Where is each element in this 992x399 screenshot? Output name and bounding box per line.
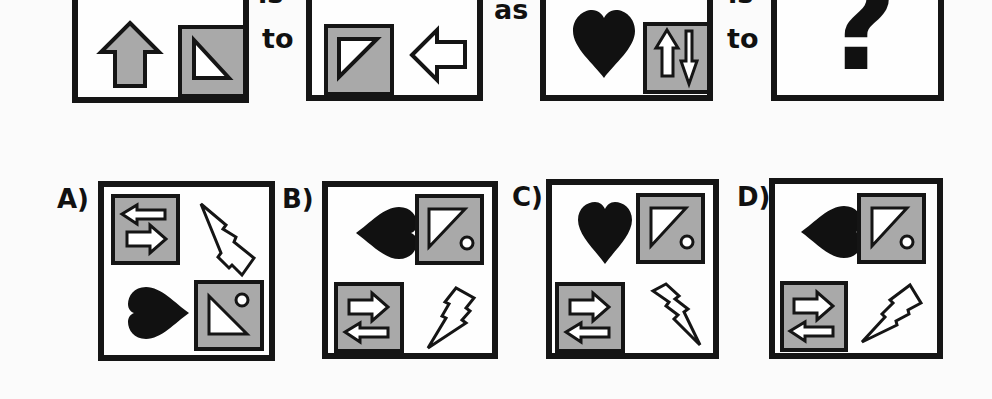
- lightning-bolt-icon: [862, 285, 921, 342]
- gray-square: [645, 24, 707, 92]
- analogy-panel-1: [72, 0, 249, 103]
- gray-square: [557, 284, 623, 351]
- heart-icon: [356, 207, 417, 259]
- option-d[interactable]: [769, 178, 943, 359]
- gray-square: [417, 196, 482, 263]
- question-mark: ?: [815, 0, 905, 89]
- option-b-label: B): [282, 186, 314, 212]
- heart-icon: [801, 206, 862, 258]
- option-b[interactable]: [322, 181, 498, 359]
- gray-square: [326, 26, 392, 94]
- lightning-bolt-icon: [201, 204, 254, 275]
- gray-square: [336, 284, 402, 351]
- heart-icon: [128, 287, 189, 339]
- circle-icon: [681, 236, 693, 248]
- option-a-label: A): [57, 186, 89, 212]
- connector-as: as: [494, 0, 528, 23]
- option-c-label: C): [512, 184, 543, 210]
- analogy-panel-2: [306, 0, 483, 101]
- analogy-panel-3: [540, 0, 713, 101]
- option-c[interactable]: [546, 179, 719, 359]
- gray-square: [638, 195, 703, 262]
- heart-icon: [578, 202, 632, 264]
- connector-is: is: [728, 0, 753, 7]
- lightning-bolt-icon: [428, 288, 474, 348]
- connector-to: to: [727, 25, 758, 52]
- circle-icon: [901, 236, 913, 248]
- up-arrow-icon: [101, 23, 159, 86]
- option-a[interactable]: [98, 181, 275, 361]
- lightning-bolt-icon: [653, 284, 700, 345]
- gray-square: [113, 196, 178, 263]
- option-d-label: D): [737, 184, 770, 210]
- heart-icon: [573, 10, 635, 78]
- connector-is: is: [258, 0, 283, 7]
- circle-icon: [236, 294, 248, 306]
- analogy-panel-answer: ?: [771, 0, 944, 101]
- gray-square: [859, 195, 924, 262]
- circle-icon: [461, 237, 473, 249]
- connector-to: to: [262, 25, 293, 52]
- gray-square: [782, 283, 846, 350]
- left-arrow-icon: [412, 30, 465, 80]
